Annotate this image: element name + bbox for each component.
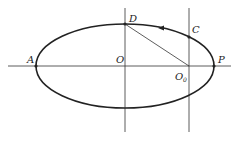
point-a	[34, 64, 37, 67]
label-a: A	[26, 54, 34, 65]
point-p	[212, 64, 215, 67]
label-c: C	[192, 24, 200, 35]
point-d	[123, 22, 126, 25]
label-o: O	[116, 54, 124, 65]
point-c	[187, 35, 190, 38]
ellipse-diagram: A O O 0 P C D	[0, 0, 242, 146]
label-o0: O	[175, 71, 183, 82]
segment-d-o0	[125, 24, 189, 66]
label-p: P	[217, 54, 225, 65]
label-o0-subscript: 0	[183, 76, 187, 83]
label-d: D	[128, 13, 137, 24]
